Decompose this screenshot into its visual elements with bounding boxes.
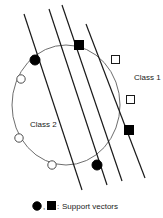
svm-diagram-figure: Class 1 Class 2 , : Support vectors [0, 0, 163, 218]
class2-marker-group [15, 55, 102, 170]
class1-square-hollow-lower [127, 96, 135, 104]
legend-colon-label: : [57, 202, 59, 211]
class1-marker-group [75, 41, 135, 135]
svm-diagram-canvas: Class 1 Class 2 , : Support vectors [0, 0, 163, 218]
class2-circle-hollow-lower-left [15, 134, 23, 142]
class2-circle-filled-support-vector-bottom [92, 160, 102, 170]
decision-boundary-circle [12, 45, 120, 165]
legend-caption-group: , : Support vectors [33, 202, 118, 212]
class1-annotation-label: Class 1 [134, 73, 161, 82]
class1-square-filled-support-vector-top [75, 41, 84, 50]
class1-square-hollow-upper [112, 56, 120, 64]
class2-annotation-label: Class 2 [30, 120, 57, 129]
hyperplane-line-2 [49, 9, 107, 185]
legend-square-icon [48, 202, 56, 210]
class2-circle-hollow-bottom [48, 161, 56, 169]
class2-circle-filled-support-vector-upper [30, 55, 40, 65]
class1-square-filled-support-vector-right [125, 126, 134, 135]
legend-separator-label: , [43, 202, 45, 211]
legend-caption-text: Support vectors [62, 202, 118, 211]
legend-circle-icon [33, 202, 41, 210]
class2-circle-hollow-upper-left [17, 75, 25, 83]
